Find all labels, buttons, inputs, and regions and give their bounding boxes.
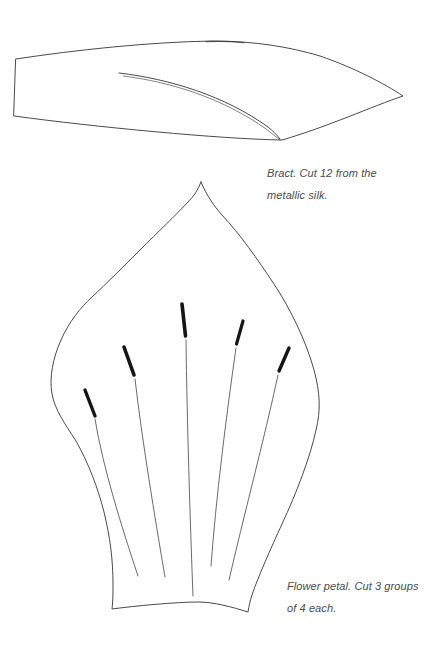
bract-caption: Bract. Cut 12 from the metallic silk. [267, 163, 377, 206]
bract-top-edge-overdraw [206, 41, 244, 42]
book-page: Bract. Cut 12 from the metallic silk. Fl… [0, 0, 439, 653]
bract-figure [14, 41, 403, 140]
bract-outline [14, 41, 403, 140]
petal-caption-line-1: Flower petal. Cut 3 groups [287, 576, 419, 598]
petal-vein-2-line [135, 379, 165, 577]
bract-inner-vein-primary [119, 73, 280, 139]
petal-outline [51, 182, 319, 612]
petal-vein-2-tip [124, 347, 134, 375]
bract-caption-line-1: Bract. Cut 12 from the [267, 163, 377, 185]
petal-vein-4-tip [237, 321, 244, 344]
bract-inner-vein-double [123, 76, 280, 140]
petal-vein-3-tip [182, 304, 186, 336]
petal-caption-line-2: of 4 each. [287, 598, 419, 620]
petal-vein-1-tip [85, 390, 95, 416]
petal-vein-4-line [211, 348, 236, 566]
bract-caption-line-2: metallic silk. [267, 185, 377, 207]
petal-figure [51, 182, 319, 612]
petal-vein-5-tip [279, 348, 289, 371]
petal-caption: Flower petal. Cut 3 groups of 4 each. [287, 576, 419, 619]
petal-vein-1-line [95, 419, 138, 576]
pattern-drawing [0, 0, 439, 653]
petal-vein-3-line [186, 340, 193, 596]
